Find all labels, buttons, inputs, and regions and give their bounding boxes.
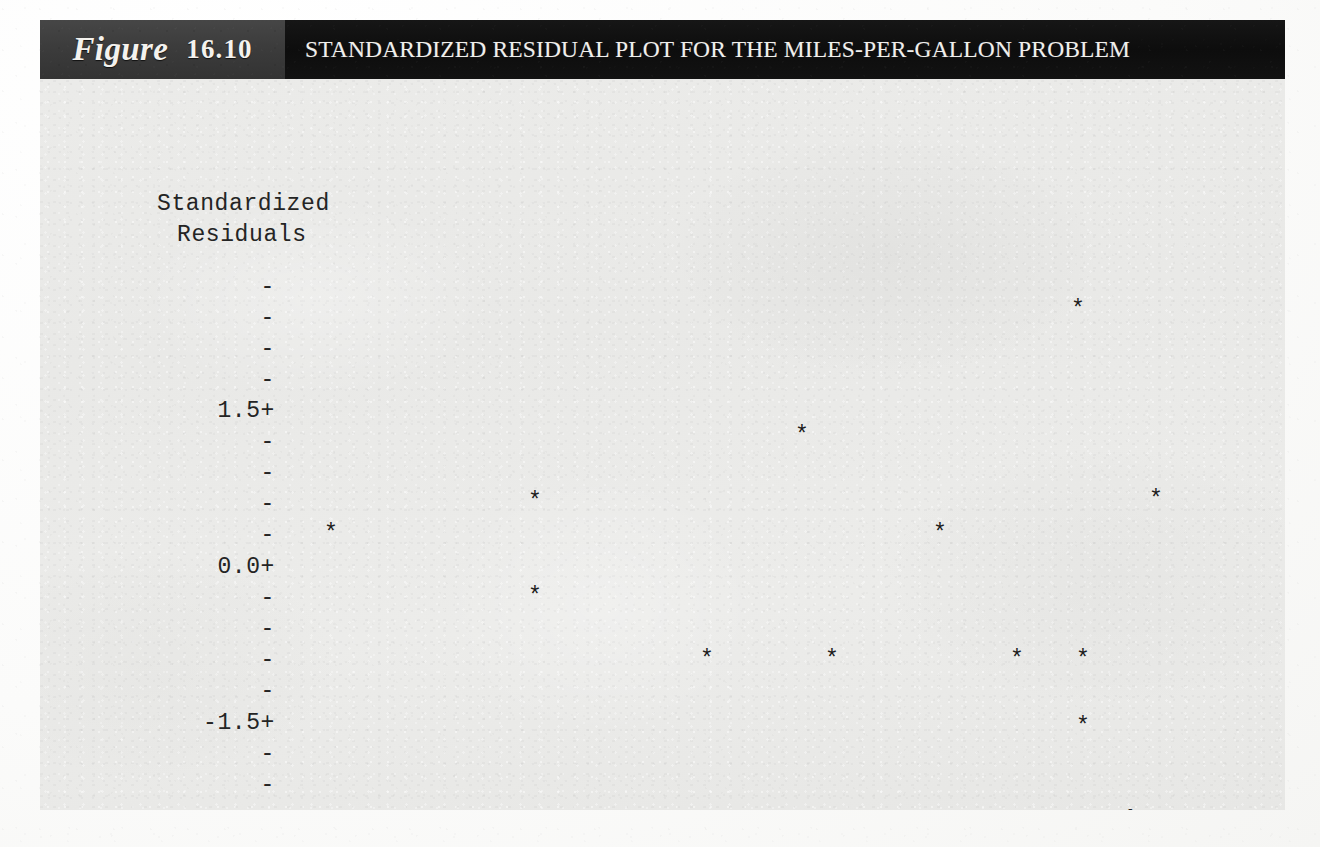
y-axis-tick: - <box>170 460 275 486</box>
y-axis-tick: - <box>170 429 275 455</box>
y-axis-tick: - <box>170 491 275 517</box>
figure-word-label: Figure <box>72 31 168 68</box>
data-point: * <box>528 586 542 609</box>
x-axis-rule: --+---------+---------+---------+-------… <box>289 806 1108 810</box>
figure-header: Figure 16.10 STANDARDIZED RESIDUAL PLOT … <box>40 20 1285 79</box>
y-axis-tick: - <box>170 678 275 704</box>
y-axis-title-line-2: Residuals <box>177 222 307 248</box>
y-axis-tick: -1.5+ <box>170 710 275 736</box>
y-axis-tick: - <box>170 336 275 362</box>
figure-card: Figure 16.10 STANDARDIZED RESIDUAL PLOT … <box>40 20 1285 810</box>
y-axis-tick: - <box>170 647 275 673</box>
figure-title-band: STANDARDIZED RESIDUAL PLOT FOR THE MILES… <box>285 20 1285 79</box>
y-axis-title-line-1: Standardized <box>157 191 330 217</box>
y-axis-tick: 0.0+ <box>170 554 275 580</box>
data-point: * <box>1076 649 1090 672</box>
y-axis-tick: - <box>170 367 275 393</box>
data-point: * <box>825 649 839 672</box>
plot-panel: Standardized Residuals ----1.5+----0.0+-… <box>40 79 1285 810</box>
y-axis-tick: - <box>170 741 275 767</box>
figure-label-band: Figure 16.10 <box>40 20 285 79</box>
y-axis-tick: - <box>170 522 275 548</box>
y-axis-tick: - <box>170 616 275 642</box>
residual-scatter-chart: Standardized Residuals ----1.5+----0.0+-… <box>40 79 1285 810</box>
data-point: * <box>528 491 542 514</box>
y-axis-tick: - <box>170 772 275 798</box>
data-point: * <box>795 425 809 448</box>
y-axis-tick: - <box>170 274 275 300</box>
data-point: * <box>1076 716 1090 739</box>
figure-page: Figure 16.10 STANDARDIZED RESIDUAL PLOT … <box>0 0 1320 847</box>
data-point: * <box>1071 299 1085 322</box>
data-point: * <box>700 649 714 672</box>
y-axis-tick: - <box>170 305 275 331</box>
data-point: * <box>1149 489 1163 512</box>
data-point: * <box>933 523 947 546</box>
data-point: * <box>324 523 338 546</box>
x-axis-variable-label: ŷ <box>1123 804 1134 810</box>
figure-title: STANDARDIZED RESIDUAL PLOT FOR THE MILES… <box>285 36 1130 63</box>
y-axis-tick: 1.5+ <box>170 398 275 424</box>
data-point: * <box>1010 649 1024 672</box>
figure-number-label: 16.10 <box>186 34 252 65</box>
y-axis-tick: - <box>170 585 275 611</box>
